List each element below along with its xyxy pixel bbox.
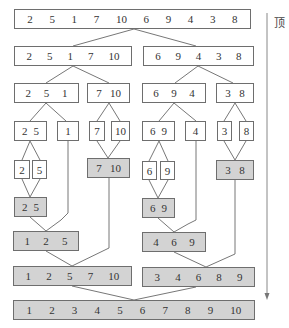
connector-line [158,218,174,232]
connector-line [61,213,68,220]
array-value: 3 [225,87,231,99]
array-value: 2 [49,304,55,316]
array-value: 2 [25,87,31,99]
array-value: 9 [237,271,243,283]
array-value: 6 [150,125,156,137]
connector-line [158,180,168,198]
array-value: 8 [244,125,250,137]
connector-line [97,103,109,121]
array-value: 4 [94,304,100,316]
array-value: 7 [96,162,102,174]
array-value: 4 [193,125,199,137]
merged-array-box: 25 [14,197,47,217]
connector-line [149,180,158,198]
split-array-box: 251710 [14,46,132,66]
connector-line [30,179,40,197]
array-value: 1 [27,304,33,316]
array-value: 9 [165,165,171,177]
split-array-box: 694 [142,83,206,103]
connector-line [46,66,73,83]
array-value: 9 [166,13,172,25]
array-value: 3 [222,125,228,137]
array-value: 5 [62,235,68,247]
array-value: 5 [47,50,53,62]
array-value: 6 [196,271,202,283]
array-value: 2 [27,13,33,25]
arrow-down-icon [265,293,270,300]
split-array-box: 251 [14,83,79,103]
connector-line [149,141,159,161]
array-value: 2 [19,164,25,176]
array-value: 6 [155,50,161,62]
array-value: 5 [37,164,43,176]
connector-line [174,224,188,232]
connector-line [188,220,196,224]
connector-line [224,141,235,160]
connector-line [224,103,235,121]
split-array-box: 1 [57,121,79,141]
array-value: 4 [189,87,195,99]
split-array-box: 5 [32,160,47,179]
merged-array-box: 38 [216,160,254,180]
connector-line [30,217,46,231]
array-value: 9 [171,87,177,99]
array-value: 6 [147,165,153,177]
connector-line [198,66,233,83]
array-value: 7 [162,304,168,316]
connector-line [30,141,40,160]
array-value: 4 [175,271,181,283]
split-array-box: 10 [111,121,130,141]
array-value: 8 [236,50,242,62]
merged-array-box: 34689 [142,267,255,287]
top-label: 顶 [274,14,285,30]
array-value: 1 [25,235,31,247]
connector-line [174,252,206,267]
split-array-box: 25 [14,121,47,141]
merged-array-box: 125 [13,231,79,251]
connector-line [235,103,246,121]
array-value: 1 [65,125,71,137]
array-value: 8 [239,164,245,176]
array-value: 4 [196,50,202,62]
array-value: 6 [140,304,146,316]
array-value: 10 [110,162,121,174]
connector-line [22,179,30,197]
array-value: 5 [34,125,40,137]
array-value: 10 [116,13,127,25]
split-array-box: 4 [185,121,206,141]
array-value: 9 [208,304,214,316]
connector-line [22,141,30,160]
array-value: 2 [27,50,33,62]
array-value: 3 [210,13,216,25]
array-value: 8 [232,13,238,25]
split-array-box: 69 [142,121,175,141]
array-value: 5 [49,13,55,25]
array-value: 9 [189,236,195,248]
split-array-box: 2 [14,160,30,179]
array-value: 2 [22,125,28,137]
connector-line [206,254,235,267]
merged-array-box: 710 [87,158,130,178]
array-value: 6 [153,87,159,99]
array-value: 2 [43,235,49,247]
array-value: 9 [176,50,182,62]
array-value: 1 [68,50,74,62]
array-value: 1 [62,87,68,99]
array-value: 10 [110,87,121,99]
array-value: 9 [162,202,168,214]
connector-line [72,286,134,300]
array-value: 5 [67,270,73,282]
split-array-box: 9 [160,161,175,180]
array-value: 4 [188,13,194,25]
connector-line [109,103,120,121]
array-value: 7 [88,50,94,62]
split-array-box: 7 [89,121,105,141]
split-array-box: 69438 [143,46,254,66]
connector-line [46,251,72,266]
array-value: 3 [216,50,222,62]
array-value: 5 [117,304,123,316]
connector-line [175,66,198,83]
array-value: 1 [26,270,32,282]
split-array-box: 25171069438 [14,9,251,29]
array-value: 4 [153,236,159,248]
